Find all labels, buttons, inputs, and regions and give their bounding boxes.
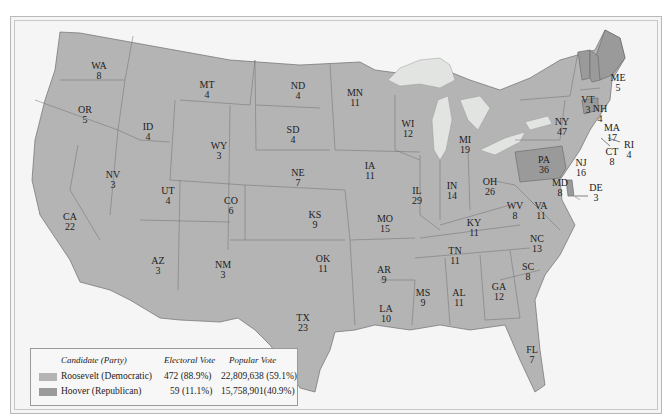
- legend-header-popular: Popular Vote: [229, 355, 276, 365]
- legend-candidate: Roosevelt (Democratic): [61, 371, 152, 381]
- state-label-ri: RI 4: [624, 140, 634, 160]
- state-label-tn: TN 11: [448, 246, 461, 266]
- state-label-wi: WI 12: [402, 119, 415, 139]
- state-label-in: IN 14: [447, 181, 458, 201]
- state-label-wv: WV 8: [507, 201, 524, 221]
- state-label-fl: FL 7: [526, 345, 538, 365]
- state-label-nc: NC 13: [530, 234, 544, 254]
- state-label-ut: UT 4: [161, 186, 174, 206]
- state-label-nd: ND 4: [291, 81, 305, 101]
- state-label-ct: CT 8: [606, 147, 619, 167]
- state-label-va: VA 11: [534, 201, 547, 221]
- state-label-ma: MA 17: [604, 123, 620, 143]
- legend-electoral: 59 (11.1%): [170, 386, 212, 396]
- state-label-or: OR 5: [78, 105, 92, 125]
- state-label-nm: NM 3: [215, 260, 231, 280]
- state-label-ar: AR 9: [377, 265, 391, 285]
- state-label-tx: TX 23: [296, 313, 309, 333]
- hoover-swatch: [39, 388, 57, 396]
- state-label-sc: SC 8: [522, 262, 534, 282]
- state-label-ne: NE 7: [291, 168, 304, 188]
- legend-header-candidate: Candidate (Party): [61, 355, 127, 365]
- state-label-ok: OK 11: [316, 254, 330, 274]
- state-label-ny: NY 47: [555, 117, 569, 137]
- legend: Candidate (Party) Electoral Vote Popular…: [30, 348, 298, 406]
- state-label-al: AL 11: [452, 288, 465, 308]
- state-label-co: CO 6: [224, 196, 238, 216]
- state-label-ca: CA 22: [63, 212, 77, 232]
- state-label-az: AZ 3: [151, 256, 164, 276]
- state-label-de: DE 3: [589, 183, 602, 203]
- state-label-ms: MS 9: [416, 288, 430, 308]
- state-label-nj: NJ 16: [575, 158, 586, 178]
- state-label-mi: MI 19: [459, 135, 471, 155]
- roosevelt-swatch: [39, 373, 57, 381]
- legend-candidate: Hoover (Republican): [61, 386, 141, 396]
- state-label-ky: KY 11: [467, 218, 481, 238]
- legend-row-hoover: Hoover (Republican) 59 (11.1%) 15,758,90…: [31, 386, 297, 398]
- state-label-pa: PA 36: [538, 155, 550, 175]
- state-label-wy: WY 3: [211, 141, 228, 161]
- state-label-me: ME 5: [611, 73, 626, 93]
- state-label-il: IL 29: [412, 186, 422, 206]
- state-label-mt: MT 4: [200, 80, 215, 100]
- state-label-nh: NH 4: [593, 104, 607, 124]
- legend-row-roosevelt: Roosevelt (Democratic) 472 (88.9%) 22,80…: [31, 371, 297, 383]
- state-label-sd: SD 4: [287, 125, 300, 145]
- state-label-la: LA 10: [379, 304, 392, 324]
- state-label-ga: GA 12: [492, 282, 506, 302]
- state-label-nv: NV 3: [106, 170, 120, 190]
- lake-superior: [388, 58, 455, 88]
- state-label-md: MD 8: [552, 178, 568, 198]
- legend-header-electoral: Electoral Vote: [164, 355, 215, 365]
- state-label-ia: IA 11: [365, 161, 376, 181]
- legend-popular: 15,758,901(40.9%): [221, 386, 295, 396]
- legend-popular: 22,809,638 (59.1%): [221, 371, 297, 381]
- state-label-id: ID 4: [143, 122, 154, 142]
- state-label-ks: KS 9: [309, 210, 322, 230]
- state-label-wa: WA 8: [91, 61, 107, 81]
- legend-electoral: 472 (88.9%): [164, 371, 212, 381]
- state-label-mo: MO 15: [377, 214, 393, 234]
- state-label-oh: OH 26: [483, 177, 497, 197]
- state-label-mn: MN 11: [347, 88, 363, 108]
